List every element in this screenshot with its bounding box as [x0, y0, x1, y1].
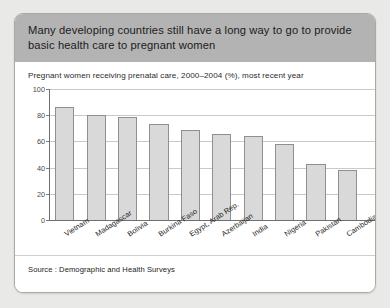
bar: [338, 170, 357, 220]
bar: [275, 144, 294, 220]
bar-slot: [175, 89, 206, 220]
chart-card: Many developing countries still have a l…: [14, 13, 376, 293]
x-axis-tick-label: India: [251, 222, 270, 238]
y-axis-line: [49, 89, 50, 221]
y-axis-tick-label: 100: [33, 85, 45, 94]
bar: [181, 130, 200, 220]
bar: [244, 136, 263, 220]
y-axis-tick-label: 0: [41, 216, 45, 225]
source-note: Source : Demographic and Health Surveys: [28, 265, 175, 274]
chart-banner-title: Many developing countries still have a l…: [28, 23, 362, 52]
y-axis-tick-label: 40: [37, 163, 45, 172]
y-axis-tick-label: 80: [37, 111, 45, 120]
y-axis-tick-label: 60: [37, 137, 45, 146]
bar-slot: [332, 89, 363, 220]
bar: [87, 115, 106, 220]
bar: [149, 124, 168, 220]
bar-slot: [143, 89, 174, 220]
y-axis-tick-label: 20: [37, 189, 45, 198]
bar-slot: [49, 89, 80, 220]
source-region: Source : Demographic and Health Surveys: [15, 255, 375, 292]
chart-subtitle: Pregnant women receiving prenatal care, …: [28, 71, 304, 80]
bar-slot: [112, 89, 143, 220]
bar: [55, 107, 74, 220]
bar: [118, 117, 137, 220]
bar-slot: [300, 89, 331, 220]
bar-slot: [237, 89, 268, 220]
bar-slot: [269, 89, 300, 220]
chart-banner: Many developing countries still have a l…: [15, 14, 375, 62]
bar-slot: [80, 89, 111, 220]
chart-plot-region: Pregnant women receiving prenatal care, …: [15, 62, 375, 276]
bar: [306, 164, 325, 220]
bar-series: [49, 89, 363, 220]
plot-axes: 020406080100: [49, 89, 375, 221]
